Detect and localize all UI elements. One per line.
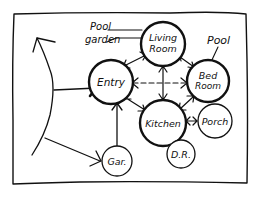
annotation-pool-garden: Pool [90, 21, 111, 32]
room-garage: Gar. [102, 146, 132, 176]
room-porch: Porch [198, 104, 232, 138]
room-label: Room [149, 43, 176, 54]
room-bed-room: Bed Room [187, 60, 229, 102]
room-label: Bed [199, 70, 218, 81]
connection-kitchen-porch [186, 117, 197, 125]
room-living-room: Living Room [141, 22, 185, 66]
room-label: Porch [202, 116, 229, 127]
approach-path [32, 38, 53, 155]
bubble-diagram: Living Room Entry Bed Room Kitchen Porch… [0, 0, 261, 198]
annotation-pool: Pool [207, 34, 230, 47]
room-kitchen: Kitchen [140, 100, 186, 146]
approach-arrowhead [33, 38, 55, 52]
room-label: Living [149, 32, 177, 43]
room-label: Entry [97, 76, 126, 88]
room-label: Gar. [107, 156, 126, 167]
room-label: Room [195, 81, 221, 91]
room-label: Kitchen [145, 118, 181, 129]
connection-outside-garage [45, 138, 100, 161]
room-label: D.R. [171, 149, 191, 160]
room-dining-room: D.R. [167, 140, 195, 168]
annotation-pool-garden: garden [85, 34, 120, 45]
room-entry: Entry [89, 60, 133, 104]
